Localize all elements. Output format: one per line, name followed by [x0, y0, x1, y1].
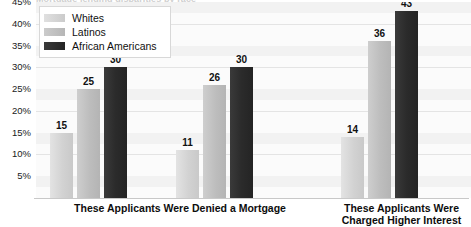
- y-axis-tick-label: 35%: [12, 41, 31, 51]
- bar: [50, 133, 73, 198]
- y-axis: 45%40%35%30%25%20%15%10%5%: [0, 0, 34, 202]
- legend-swatch-icon: [44, 42, 65, 50]
- y-axis-tick-label: 45%: [12, 0, 31, 7]
- bar: [341, 137, 364, 198]
- legend-label: African Americans: [72, 41, 157, 52]
- legend-swatch-icon: [44, 14, 65, 22]
- legend-label: Whites: [72, 13, 104, 24]
- bar-value-label: 43: [395, 2, 418, 9]
- bar: [176, 150, 199, 198]
- y-axis-tick-label: 10%: [12, 150, 31, 160]
- bar-value-label: 11: [176, 138, 199, 148]
- bar-value-label: 14: [341, 125, 364, 135]
- bar: [230, 67, 253, 198]
- y-axis-tick-label: 5%: [17, 171, 31, 181]
- legend-item-latinos: Latinos: [44, 25, 165, 39]
- axis-baseline: [34, 198, 469, 199]
- legend-label: Latinos: [72, 27, 106, 38]
- bar: [203, 85, 226, 198]
- bar-chart: Mortgage lending disparities by race 45%…: [0, 0, 471, 226]
- y-axis-tick-label: 15%: [12, 128, 31, 138]
- bar: [368, 41, 391, 198]
- legend-item-african-americans: African Americans: [44, 39, 165, 53]
- bar-value-label: 26: [203, 73, 226, 83]
- bar-value-label: 30: [230, 55, 253, 65]
- category-label-denied-mortgage: These Applicants Were Denied a Mortgage: [50, 203, 310, 215]
- y-axis-tick-label: 20%: [12, 106, 31, 116]
- category-label-higher-interest: These Applicants Were Charged Higher Int…: [334, 203, 469, 226]
- legend-swatch-icon: [44, 28, 65, 36]
- legend-item-whites: Whites: [44, 11, 165, 25]
- bar-value-label: 25: [77, 77, 100, 87]
- y-axis-tick-label: 40%: [12, 19, 31, 29]
- bar-value-label: 36: [368, 29, 391, 39]
- y-axis-tick-label: 25%: [12, 84, 31, 94]
- category-label-line1: These Applicants Were: [344, 202, 459, 214]
- chart-legend: Whites Latinos African Americans: [39, 6, 171, 58]
- bar-value-label: 15: [50, 121, 73, 131]
- bar: [77, 89, 100, 198]
- bar: [395, 11, 418, 198]
- bar: [104, 67, 127, 198]
- category-label-line1: These Applicants Were Denied a Mortgage: [74, 202, 286, 214]
- category-label-line2: Charged Higher Interest: [334, 215, 469, 227]
- y-axis-tick-label: 30%: [12, 63, 31, 73]
